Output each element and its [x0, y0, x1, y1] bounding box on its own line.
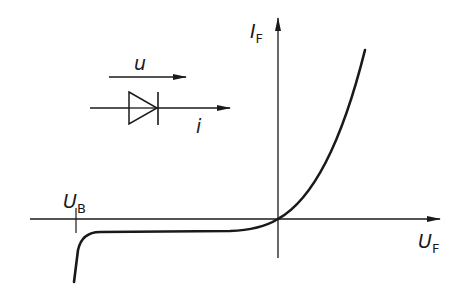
- diode-symbol: u i: [90, 52, 230, 137]
- current-label: i: [196, 115, 202, 137]
- diode-characteristic-diagram: IF UF UB u i: [0, 0, 470, 294]
- characteristic-curve: [74, 50, 365, 282]
- voltage-label: u: [134, 52, 146, 74]
- x-axis-label: UF: [418, 230, 439, 256]
- y-axis-label: IF: [250, 20, 263, 46]
- breakdown-label: UB: [63, 190, 86, 216]
